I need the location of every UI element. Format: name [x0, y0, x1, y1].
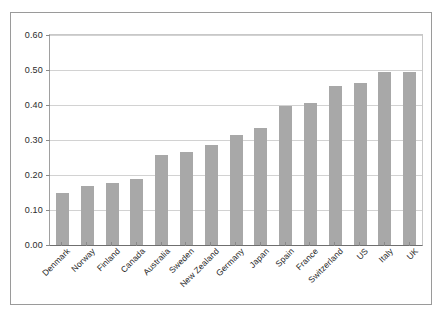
figure-frame: 0.000.100.200.300.400.500.60 DenmarkNorw…	[10, 12, 432, 305]
bar	[106, 183, 119, 245]
y-tick-label: 0.30	[25, 135, 43, 145]
x-axis: DenmarkNorwayFinlandCanadaAustraliaSwede…	[49, 246, 421, 304]
bar	[81, 186, 94, 245]
x-tick-mark	[409, 242, 410, 246]
y-tick-label: 0.50	[25, 65, 43, 75]
x-tick-mark	[285, 242, 286, 246]
x-tick-mark	[384, 242, 385, 246]
bar	[205, 145, 218, 245]
plot-area: 0.000.100.200.300.400.500.60	[49, 34, 423, 246]
x-tick-mark	[185, 242, 186, 246]
bar	[329, 86, 342, 245]
bar	[155, 155, 168, 245]
x-tick-mark	[136, 242, 137, 246]
y-tick-label: 0.00	[25, 240, 43, 250]
x-tick-mark	[111, 242, 112, 246]
bar	[254, 128, 267, 245]
bar	[180, 152, 193, 245]
y-tick-label: 0.20	[25, 170, 43, 180]
x-tick-mark	[86, 242, 87, 246]
y-tick-label: 0.60	[25, 30, 43, 40]
x-tick-mark	[359, 242, 360, 246]
x-tick-mark	[334, 242, 335, 246]
bar	[130, 179, 143, 245]
y-tick-label: 0.40	[25, 100, 43, 110]
chart-figure: 0.000.100.200.300.400.500.60 DenmarkNorw…	[0, 0, 444, 318]
bar	[56, 193, 69, 245]
x-tick-mark	[309, 242, 310, 246]
x-tick-mark	[260, 242, 261, 246]
x-tick-mark	[210, 242, 211, 246]
bar	[304, 103, 317, 245]
bar	[378, 72, 391, 245]
y-tick-label: 0.10	[25, 205, 43, 215]
bar-series	[50, 35, 422, 245]
chart-area: 0.000.100.200.300.400.500.60 DenmarkNorw…	[11, 13, 433, 306]
x-tick-mark	[235, 242, 236, 246]
x-tick-mark	[161, 242, 162, 246]
bar	[354, 83, 367, 245]
bar	[403, 72, 416, 245]
bar	[230, 135, 243, 245]
bar	[279, 106, 292, 245]
x-tick-mark	[61, 242, 62, 246]
